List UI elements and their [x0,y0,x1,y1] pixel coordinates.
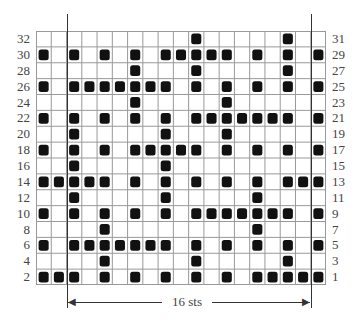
filled-cell [252,240,262,251]
repeat-left-boundary [67,14,68,308]
filled-cell [161,192,171,203]
filled-cell [100,224,110,235]
filled-cell [69,145,79,156]
filled-cell [191,34,201,45]
filled-cell [313,49,323,60]
filled-cell [100,81,110,92]
filled-cell [161,113,171,124]
filled-cell [130,145,140,156]
filled-cell [298,176,308,187]
filled-cell [191,208,201,219]
row-label-left: 18 [6,142,30,158]
filled-cell [69,192,79,203]
row-label-left: 16 [6,158,30,174]
filled-cell [313,208,323,219]
filled-cell [39,208,49,219]
filled-cell [252,208,262,219]
filled-cell [161,81,171,92]
filled-cell [222,208,232,219]
filled-cell [283,145,293,156]
filled-cell [161,176,171,187]
filled-cell [130,176,140,187]
filled-cell [268,208,278,219]
filled-cell [130,49,140,60]
filled-cell [100,176,110,187]
row-label-right: 17 [332,142,356,158]
row-label-right: 25 [332,79,356,95]
filled-cell [161,145,171,156]
filled-cell [237,113,247,124]
filled-cell [39,240,49,251]
row-label-left: 20 [6,126,30,142]
filled-cell [283,49,293,60]
row-label-right: 5 [332,237,356,253]
filled-cell [39,81,49,92]
row-label-left: 4 [6,253,30,269]
filled-cell [313,272,323,283]
filled-cell [115,81,125,92]
row-label-right: 11 [332,190,356,206]
filled-cell [130,81,140,92]
row-label-right: 1 [332,269,356,285]
row-label-left: 26 [6,79,30,95]
filled-cell [222,81,232,92]
filled-cell [191,272,201,283]
filled-cell [69,240,79,251]
filled-cell [100,208,110,219]
filled-cell [252,81,262,92]
filled-cell [161,208,171,219]
filled-cell [283,113,293,124]
filled-cell [161,240,171,251]
filled-cell [39,272,49,283]
row-label-right: 29 [332,47,356,63]
filled-cell [84,240,94,251]
filled-cell [313,81,323,92]
filled-cell [191,176,201,187]
row-label-right: 23 [332,95,356,111]
filled-cell [176,145,186,156]
filled-cell [69,49,79,60]
filled-cell [191,65,201,76]
filled-cell [206,49,216,60]
filled-cell [100,145,110,156]
filled-cell [161,49,171,60]
filled-cell [283,176,293,187]
row-label-left: 12 [6,190,30,206]
filled-cell [283,208,293,219]
row-label-right: 15 [332,158,356,174]
row-label-right: 9 [332,206,356,222]
filled-cell [39,49,49,60]
row-label-right: 31 [332,31,356,47]
chart-grid [36,31,326,285]
row-label-left: 8 [6,222,30,238]
row-label-right: 19 [332,126,356,142]
row-label-left: 32 [6,31,30,47]
row-label-left: 6 [6,237,30,253]
row-label-left: 14 [6,174,30,190]
filled-cell [206,208,216,219]
filled-cell [252,145,262,156]
filled-cell [313,145,323,156]
filled-cell [161,161,171,172]
filled-cell [252,49,262,60]
filled-cell [298,272,308,283]
filled-cell [130,240,140,251]
filled-cell [54,176,64,187]
arrow-left-icon: ◀ [68,297,76,307]
filled-cell [191,49,201,60]
filled-cell [84,81,94,92]
filled-cell [252,176,262,187]
row-label-left: 2 [6,269,30,285]
filled-cell [252,113,262,124]
filled-cell [130,272,140,283]
filled-cell [283,81,293,92]
filled-cell [100,240,110,251]
filled-cell [206,113,216,124]
filled-cell [100,272,110,283]
filled-cell [145,240,155,251]
row-label-left: 30 [6,47,30,63]
filled-cell [313,240,323,251]
filled-cell [39,176,49,187]
filled-cell [145,145,155,156]
knitting-chart: 3230282624222018161412108642 31292725232… [0,0,363,324]
